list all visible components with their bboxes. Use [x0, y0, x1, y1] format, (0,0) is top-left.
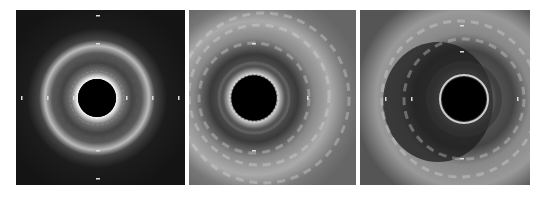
lumen	[442, 77, 486, 121]
ivus-panel-2	[189, 10, 356, 185]
ivus-panel-3	[360, 10, 530, 185]
ivus-image-1	[16, 10, 185, 185]
ivus-image-2	[189, 10, 356, 185]
lumen	[78, 79, 116, 117]
ivus-panel-1	[16, 10, 185, 185]
ivus-image-3	[360, 10, 530, 185]
lumen	[232, 76, 276, 120]
